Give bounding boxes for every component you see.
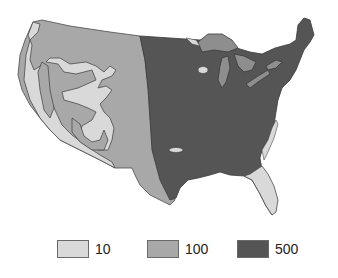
legend-label-10: 10 [95, 241, 111, 257]
map-legend: 10 100 500 [0, 234, 338, 264]
region-10-spot-ozarks [169, 148, 183, 153]
us-map [0, 0, 338, 230]
legend-item-10: 10 [57, 240, 111, 258]
region-10-spot-minnesota [198, 67, 208, 74]
lake-superior [198, 34, 238, 52]
legend-label-500: 500 [275, 241, 298, 257]
legend-swatch-10 [57, 240, 89, 258]
legend-item-500: 500 [237, 240, 298, 258]
legend-label-100: 100 [185, 241, 208, 257]
legend-swatch-500 [237, 240, 269, 258]
legend-swatch-100 [147, 240, 179, 258]
legend-item-100: 100 [147, 240, 208, 258]
